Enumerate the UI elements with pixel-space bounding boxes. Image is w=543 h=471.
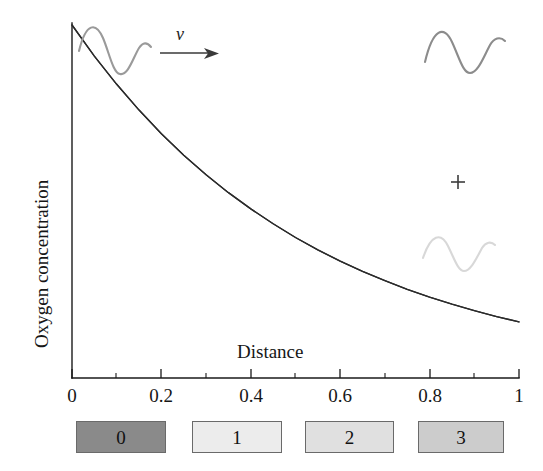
- plus-operator-icon: [451, 175, 465, 189]
- x-tick-label-3: 0.6: [320, 385, 360, 407]
- legend-swatch-0: 0: [76, 421, 166, 453]
- oxygen-concentration-figure: Oxygen concentration Distance v 0 0.2 0.…: [0, 0, 543, 471]
- legend-label-0: 0: [116, 428, 126, 447]
- legend-label-1: 1: [232, 428, 242, 447]
- legend-label-3: 3: [456, 428, 466, 447]
- x-tick-label-1: 0.2: [141, 385, 181, 407]
- legend-label-2: 2: [345, 428, 355, 447]
- wave-lower-right-icon: [423, 237, 495, 271]
- x-axis-title: Distance: [237, 341, 303, 363]
- legend-swatch-3: 3: [418, 421, 504, 453]
- legend-swatch-1: 1: [192, 421, 282, 453]
- wave-upper-right-icon: [425, 32, 505, 73]
- y-axis-title: Oxygen concentration: [31, 180, 53, 348]
- velocity-arrow-icon: [160, 48, 219, 59]
- velocity-label: v: [176, 24, 184, 45]
- x-tick-label-2: 0.4: [231, 385, 271, 407]
- oxygen-decay-curve-samples: [72, 25, 519, 322]
- x-tick-label-5: 1: [499, 385, 539, 407]
- x-tick-label-0: 0: [52, 385, 92, 407]
- x-axis-minor-ticks: [116, 373, 474, 378]
- x-tick-label-4: 0.8: [410, 385, 450, 407]
- oxygen-decay-curve: [72, 25, 519, 322]
- legend: 0 1 2 3: [0, 421, 543, 457]
- legend-swatch-2: 2: [305, 421, 394, 453]
